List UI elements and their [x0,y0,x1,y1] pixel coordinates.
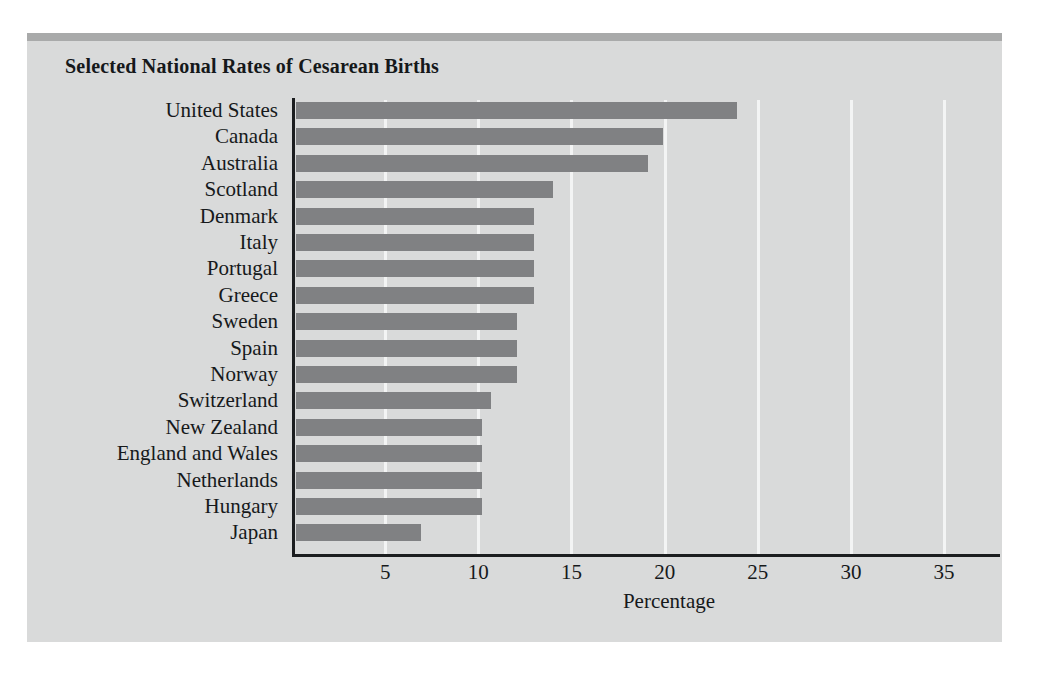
bar-row: New Zealand [292,419,1000,445]
bar-row: Hungary [292,498,1000,524]
category-label: Japan [230,520,278,544]
panel-top-strip [27,33,1002,41]
chart-panel: Selected National Rates of Cesarean Birt… [27,33,1002,642]
bar-row: Italy [292,234,1000,260]
x-tick-label: 15 [561,560,582,585]
category-label: Denmark [200,204,278,228]
bar [296,260,534,277]
plot-area: United StatesCanadaAustraliaScotlandDenm… [292,102,1000,550]
category-label: United States [165,98,278,122]
category-label: England and Wales [117,441,278,465]
bar-row: Greece [292,287,1000,313]
bar [296,392,491,409]
bar [296,234,534,251]
bar-row: Norway [292,366,1000,392]
x-tick-label: 5 [380,560,391,585]
bar [296,524,421,541]
bar [296,313,517,330]
bar [296,128,663,145]
category-label: Sweden [212,309,279,333]
bar-row: Scotland [292,181,1000,207]
category-label: Greece [219,283,278,307]
bar [296,498,482,515]
bar [296,155,648,172]
bar-row: Spain [292,340,1000,366]
category-label: Spain [230,336,278,360]
category-label: Norway [210,362,278,386]
chart-title: Selected National Rates of Cesarean Birt… [65,55,439,78]
category-label: Netherlands [177,468,278,492]
category-label: Italy [240,230,278,254]
bar [296,419,482,436]
category-label: Canada [215,124,278,148]
bar-row: Japan [292,524,1000,550]
bar-row: United States [292,102,1000,128]
x-axis-title-text: Percentage [623,589,715,613]
category-label: Australia [201,151,278,175]
x-tick-label: 10 [468,560,489,585]
bar-row: Switzerland [292,392,1000,418]
x-tick-label: 35 [934,560,955,585]
bar [296,445,482,462]
bar-row: Australia [292,155,1000,181]
bar [296,102,737,119]
bar-row: Canada [292,128,1000,154]
bar [296,181,553,198]
category-label: Portugal [207,256,278,280]
x-tick-label: 20 [654,560,675,585]
chart-screenshot: Selected National Rates of Cesarean Birt… [0,0,1056,677]
category-label: New Zealand [165,415,278,439]
bar-row: Sweden [292,313,1000,339]
x-axis-line [292,554,1000,557]
bar-row: Denmark [292,208,1000,234]
x-tick-label: 30 [840,560,861,585]
bar [296,472,482,489]
bar [296,287,534,304]
x-axis-title: Percentage [292,589,1000,614]
bar-row: Netherlands [292,472,1000,498]
bar-row: Portugal [292,260,1000,286]
bar [296,340,517,357]
x-tick-label: 25 [747,560,768,585]
category-label: Scotland [205,177,279,201]
bar [296,366,517,383]
bar-row: England and Wales [292,445,1000,471]
category-label: Hungary [205,494,278,518]
y-axis-line [292,98,295,554]
bar [296,208,534,225]
category-label: Switzerland [178,388,278,412]
